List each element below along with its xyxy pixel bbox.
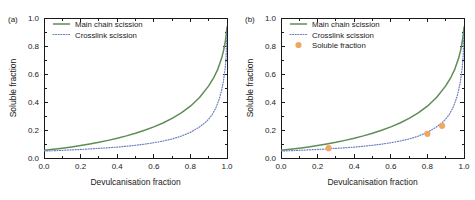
soluble-fraction-marker (424, 131, 430, 137)
x-axis-title: Devulcanisation fraction (90, 177, 181, 187)
y-tick-label: 0.8 (265, 42, 277, 51)
panel-b: 0.00.20.40.60.81.00.00.20.40.60.81.0Devu… (237, 0, 474, 200)
soluble-fraction-marker (439, 123, 445, 129)
y-tick-label: 0.8 (28, 42, 40, 51)
panel-label: (b) (245, 15, 255, 24)
soluble-fraction-marker (325, 145, 331, 151)
legend-label: Main chain scission (312, 20, 380, 29)
y-tick-label: 0.4 (265, 98, 277, 107)
y-tick-label: 0.6 (265, 70, 277, 79)
main-chain-scission-curve (44, 27, 227, 150)
legend-label: Soluble fraction (312, 41, 366, 50)
y-tick-label: 0.0 (28, 154, 40, 163)
y-tick-label: 0.2 (28, 126, 40, 135)
y-tick-label: 0.6 (28, 70, 40, 79)
x-tick-label: 0.8 (422, 162, 434, 171)
x-tick-label: 1.0 (221, 162, 233, 171)
y-tick-label: 1.0 (265, 14, 277, 23)
x-axis-title: Devulcanisation fraction (327, 177, 418, 187)
x-tick-label: 0.6 (148, 162, 160, 171)
x-tick-label: 0.4 (349, 162, 361, 171)
panel-label: (a) (8, 15, 18, 24)
y-tick-label: 0.4 (28, 98, 40, 107)
x-tick-label: 0.4 (112, 162, 124, 171)
x-tick-label: 0.8 (185, 162, 197, 171)
y-tick-label: 0.2 (265, 126, 277, 135)
x-tick-label: 0.2 (75, 162, 87, 171)
y-tick-label: 1.0 (28, 14, 40, 23)
x-tick-label: 0.0 (38, 162, 50, 171)
figure-container: 0.00.20.40.60.81.00.00.20.40.60.81.0Devu… (0, 0, 475, 200)
panel-a: 0.00.20.40.60.81.00.00.20.40.60.81.0Devu… (0, 0, 237, 200)
main-chain-scission-curve (281, 27, 464, 150)
x-tick-label: 0.0 (275, 162, 287, 171)
y-axis-title: Soluble fraction (245, 58, 255, 117)
legend-label: Crosslink scission (75, 31, 137, 40)
x-tick-label: 0.6 (385, 162, 397, 171)
x-tick-label: 1.0 (458, 162, 470, 171)
legend-label: Crosslink scission (312, 31, 374, 40)
x-tick-label: 0.2 (312, 162, 324, 171)
y-tick-label: 0.0 (265, 154, 277, 163)
legend-label: Main chain scission (75, 20, 143, 29)
y-axis-title: Soluble fraction (8, 58, 18, 117)
legend-swatch-soluble-fraction (295, 42, 301, 48)
